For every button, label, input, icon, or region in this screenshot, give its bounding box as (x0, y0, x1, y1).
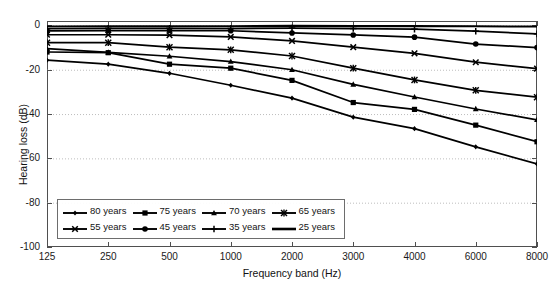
legend-item-65-years[interactable]: 65 years (271, 205, 341, 217)
chart-legend: 80 years75 years70 years65 years55 years… (57, 199, 345, 239)
data-point-marker (412, 34, 418, 40)
legend-label: 80 years (88, 206, 126, 216)
x-tick-label: 4000 (403, 252, 425, 262)
legend-item-45-years[interactable]: 45 years (132, 221, 202, 233)
data-point-marker (142, 226, 148, 232)
legend-item-55-years[interactable]: 55 years (62, 221, 132, 233)
legend-label: 25 years (297, 222, 335, 232)
legend-label: 70 years (227, 206, 265, 216)
x-tick-label: 3000 (342, 252, 364, 262)
data-point-marker (473, 123, 478, 128)
x-tick-label: 250 (100, 252, 117, 262)
legend-marker-square-icon (132, 205, 158, 217)
x-axis-label: Frequency band (Hz) (47, 268, 537, 279)
legend-marker-xcross-icon (62, 221, 88, 233)
legend-marker-asterisk-icon (271, 205, 297, 217)
data-point-marker (211, 226, 218, 233)
y-tick-label: 0 (2, 20, 40, 30)
x-tick-label: 125 (39, 252, 56, 262)
legend-label: 65 years (297, 206, 335, 216)
y-tick-label: -100 (2, 242, 40, 252)
legend-item-80-years[interactable]: 80 years (62, 205, 132, 217)
legend-marker-diamond-icon (62, 205, 88, 217)
legend-item-25-years[interactable]: 25 years (271, 221, 341, 233)
data-point-marker (167, 62, 172, 67)
legend-item-70-years[interactable]: 70 years (201, 205, 271, 217)
data-point-marker (412, 107, 417, 112)
plot-canvas (0, 0, 551, 284)
data-point-marker (228, 66, 233, 71)
legend-label: 55 years (88, 222, 126, 232)
x-tick-label: 2000 (281, 252, 303, 262)
data-point-marker (473, 41, 479, 47)
data-point-marker (142, 210, 147, 215)
data-point-marker (44, 49, 49, 54)
legend-row: 55 years45 years35 years25 years (62, 219, 340, 235)
legend-row: 80 years75 years70 years65 years (62, 203, 340, 219)
data-point-marker (350, 32, 356, 38)
x-tick-label: 1000 (220, 252, 242, 262)
data-point-marker (73, 210, 77, 215)
x-tick-label: 8000 (526, 252, 548, 262)
data-point-marker (228, 28, 234, 34)
legend-item-35-years[interactable]: 35 years (201, 221, 271, 233)
legend-marker-plus-icon (201, 221, 227, 233)
data-point-marker (534, 45, 540, 51)
y-tick-label: -20 (2, 65, 40, 75)
y-axis-label: Hearing loss (dB) (18, 85, 29, 205)
x-tick-label: 500 (161, 252, 178, 262)
x-tick-label: 6000 (465, 252, 487, 262)
data-point-marker (289, 78, 294, 83)
data-point-marker (351, 100, 356, 105)
legend-item-75-years[interactable]: 75 years (132, 205, 202, 217)
data-point-marker (106, 50, 111, 55)
legend-label: 75 years (158, 206, 196, 216)
legend-label: 35 years (227, 222, 265, 232)
legend-marker-triangle-icon (201, 205, 227, 217)
legend-marker-circle-icon (132, 221, 158, 233)
legend-marker-none-icon (271, 221, 297, 233)
legend-label: 45 years (158, 222, 196, 232)
data-point-marker (289, 30, 295, 36)
hearing-loss-chart-figure: 0-20-40-60-80-100 1252505001000200030004… (0, 0, 551, 284)
data-point-marker (534, 139, 539, 144)
